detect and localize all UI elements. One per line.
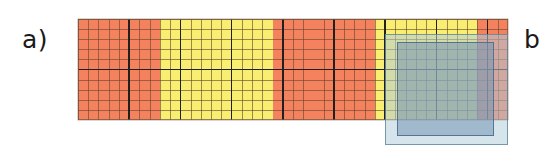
panel-label-a: a)	[22, 27, 48, 52]
figure-panel-a: a) b	[0, 0, 540, 159]
heatmap-band-yellow-1	[160, 19, 273, 120]
panel-label-b: b	[524, 27, 540, 52]
heatmap-band-orange-2	[273, 19, 375, 120]
heatmap-band-orange-0	[78, 19, 160, 120]
selection-box-front[interactable]	[397, 42, 494, 136]
